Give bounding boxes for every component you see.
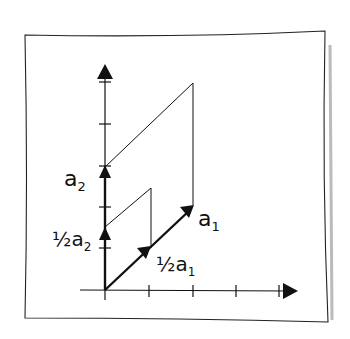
- sketch-canvas: a2 a1 ½a2 ½a1: [0, 0, 350, 339]
- paper-shadow: [330, 45, 332, 320]
